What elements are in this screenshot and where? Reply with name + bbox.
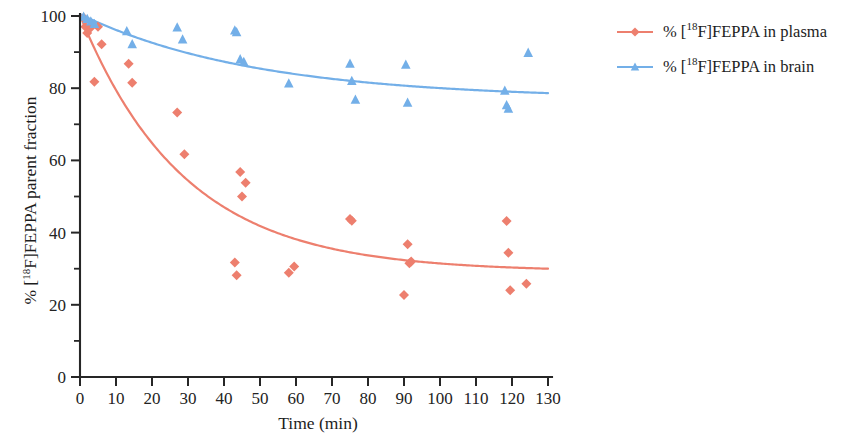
data-point-plasma [241,178,251,188]
x-tick-label: 40 [216,389,233,408]
y-tick-label: 100 [41,7,67,26]
data-point-brain [403,97,413,106]
data-point-plasma [505,285,515,295]
x-tick-label: 70 [324,389,341,408]
y-axis-title-post: F]FEPPA parent fraction [20,96,40,269]
y-tick-label: 80 [49,79,66,98]
data-point-plasma [503,248,513,258]
x-tick-label: 20 [144,389,161,408]
y-axis-title-superscript: 18 [20,268,32,280]
legend-label-post: F]FEPPA in plasma [697,22,827,41]
data-markers-group [79,12,533,301]
axes-group [80,14,552,377]
chart-plot-area: 020406080100 010203040506070809010011012… [0,0,851,433]
y-tick-label: 20 [49,296,66,315]
legend-label-post: F]FEPPA in brain [697,57,814,76]
data-point-plasma [521,279,531,289]
fit-curve-plasma [80,15,548,268]
data-point-plasma [399,290,409,300]
y-axis-ticks: 020406080100 [41,7,81,387]
data-point-plasma [127,78,137,88]
y-axis-title: % [18F]FEPPA parent fraction [20,96,40,304]
x-tick-label: 50 [252,389,269,408]
data-point-plasma [89,77,99,87]
data-point-plasma [230,258,240,268]
x-tick-label: 130 [535,389,561,408]
legend-label-plasma: % [18F]FEPPA in plasma [663,20,828,41]
x-tick-label: 30 [180,389,197,408]
x-tick-label: 80 [360,389,377,408]
fit-curve-brain [80,14,548,93]
data-point-plasma [97,39,107,49]
data-point-plasma [235,167,245,177]
data-point-brain [401,60,411,69]
chart-legend: % [18F]FEPPA in plasma% [18F]FEPPA in br… [617,20,828,76]
legend-label-pre: % [ [663,22,686,41]
data-point-brain [172,22,182,31]
y-tick-label: 40 [49,224,66,243]
data-point-brain [284,78,294,87]
data-point-plasma [172,107,182,117]
data-point-plasma [237,192,247,202]
x-tick-label: 110 [464,389,489,408]
figure-container: 020406080100 010203040506070809010011012… [0,0,851,433]
fit-curves-group [80,14,548,269]
data-point-plasma [502,216,512,226]
data-point-brain [122,26,132,35]
legend-label-pre: % [ [663,57,686,76]
data-point-plasma [232,270,242,280]
x-axis-ticks: 0102030405060708090100110120130 [76,377,561,408]
data-point-brain [127,39,137,48]
data-point-plasma [403,239,413,249]
y-axis-title-pre: % [ [20,280,40,305]
data-point-plasma [179,149,189,159]
x-tick-label: 10 [108,389,125,408]
data-point-brain [351,95,361,104]
legend-label-superscript: 18 [686,55,698,67]
y-tick-label: 60 [49,151,66,170]
data-point-brain [345,58,355,67]
x-tick-label: 60 [288,389,305,408]
legend-label-superscript: 18 [686,20,698,32]
legend-label-brain: % [18F]FEPPA in brain [663,55,814,76]
data-point-plasma [124,59,134,69]
x-tick-label: 0 [76,389,85,408]
y-tick-label: 0 [58,368,67,387]
data-point-brain [523,48,533,57]
x-axis-title: Time (min) [278,413,358,433]
legend-marker-plasma [630,27,639,36]
x-tick-label: 100 [427,389,453,408]
x-tick-label: 90 [396,389,413,408]
x-tick-label: 120 [499,389,525,408]
data-point-brain [500,86,510,95]
data-point-brain [178,34,188,43]
